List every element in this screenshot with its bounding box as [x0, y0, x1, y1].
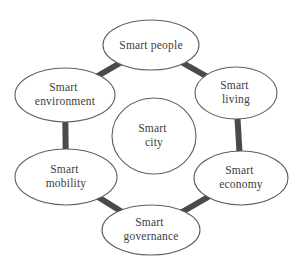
smart-mobility-label: Smart mobility — [46, 163, 87, 190]
node-smart-living: Smart living — [195, 67, 277, 119]
smart-people-label: Smart people — [119, 39, 182, 52]
smart-economy-label: Smart economy — [219, 164, 263, 191]
node-smart-environment: Smart environment — [15, 68, 115, 122]
diagram-canvas: Smart people Smart environment Smart liv… — [0, 0, 306, 270]
smart-city-diagram: Smart people Smart environment Smart liv… — [0, 0, 306, 270]
node-smart-mobility: Smart mobility — [15, 149, 117, 205]
smart-living-label: Smart living — [220, 79, 252, 106]
node-smart-economy: Smart economy — [194, 151, 288, 205]
node-smart-governance: Smart governance — [102, 205, 200, 255]
node-smart-city: Smart city — [112, 98, 196, 174]
node-smart-people: Smart people — [103, 20, 199, 70]
